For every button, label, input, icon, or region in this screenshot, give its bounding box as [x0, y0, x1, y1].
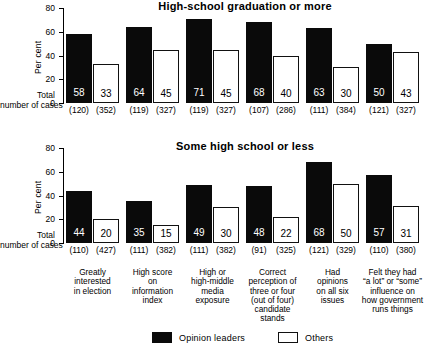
y-axis-label: Per cent [33, 41, 43, 74]
total-cases-label-line2: number of cases [0, 100, 55, 110]
total-cases-caption: Totalnumber of cases [0, 230, 55, 250]
bar-leader: 63 [306, 28, 332, 103]
bar-other: 43 [393, 52, 419, 103]
bar-value-label: 33 [94, 89, 118, 99]
bar-value-label: 45 [214, 89, 238, 99]
category-label-line: stands [232, 314, 313, 323]
bar-leader: 64 [126, 27, 152, 103]
category-label-6: Felt they had“a lot” or “some”influence … [352, 268, 433, 314]
bar-leader: 58 [66, 34, 92, 103]
y-axis-tick-label: 80 [39, 4, 55, 12]
y-axis-tick [59, 56, 63, 57]
bar-value-label: 15 [154, 229, 178, 239]
bar-value-label: 40 [274, 89, 298, 99]
bar-value-label: 45 [154, 89, 178, 99]
total-cases-caption: Totalnumber of cases [0, 90, 55, 110]
bar-other: 31 [393, 206, 419, 243]
bar-value-label: 49 [187, 228, 211, 238]
bar-other: 50 [333, 184, 359, 243]
n-cases-label: (327) [149, 106, 183, 115]
bar-value-label: 44 [67, 228, 91, 238]
figure-root: High-school graduation or more 020406080… [0, 0, 435, 353]
bar-value-label: 30 [214, 229, 238, 239]
bar-value-label: 50 [367, 88, 391, 98]
bar-value-label: 48 [247, 228, 271, 238]
bar-value-label: 20 [94, 229, 118, 239]
bar-value-label: 35 [127, 228, 151, 238]
n-cases-label: (382) [149, 246, 183, 255]
legend-item-other: Others [278, 332, 333, 343]
bar-leader: 35 [126, 201, 152, 243]
legend-label: Opinion leaders [179, 333, 245, 343]
bar-value-label: 31 [394, 229, 418, 239]
n-cases-label: (352) [89, 106, 123, 115]
bar-value-label: 30 [334, 89, 358, 99]
bar-value-label: 58 [67, 88, 91, 98]
y-axis-tick [59, 32, 63, 33]
n-cases-label: (427) [89, 246, 123, 255]
n-cases-label: (286) [269, 106, 303, 115]
chart-panel-some-high-school: Some high school or less 020406080Per ce… [0, 140, 435, 267]
bar-value-label: 71 [187, 88, 211, 98]
n-cases-label: (380) [389, 246, 423, 255]
y-axis-tick-label: 20 [39, 75, 55, 83]
bar-other: 40 [273, 56, 299, 104]
bar-leader: 68 [306, 162, 332, 243]
bar-value-label: 22 [274, 229, 298, 239]
chart-panel-high-school-graduation: High-school graduation or more 020406080… [0, 0, 435, 140]
y-axis-line [63, 8, 64, 104]
y-axis-tick-label: 60 [39, 168, 55, 176]
bar-other: 30 [213, 207, 239, 243]
bar-other: 15 [153, 225, 179, 243]
n-cases-label: (329) [329, 246, 363, 255]
bar-other: 45 [153, 50, 179, 103]
n-cases-label: (325) [269, 246, 303, 255]
legend-swatch-other-icon [278, 332, 298, 343]
bar-leader: 71 [186, 19, 212, 103]
bar-value-label: 64 [127, 88, 151, 98]
bar-other: 22 [273, 217, 299, 243]
bar-leader: 48 [246, 186, 272, 243]
bar-value-label: 43 [394, 89, 418, 99]
plot-area: 020406080Per centTotalnumber of cases44(… [0, 140, 435, 250]
y-axis-tick-label: 20 [39, 215, 55, 223]
n-cases-label: (327) [389, 106, 423, 115]
category-labels-row: Greatlyinterestedin electionHigh scoreon… [0, 268, 435, 330]
total-cases-label-line2: number of cases [0, 240, 55, 250]
bar-other: 30 [333, 67, 359, 103]
bar-value-label: 63 [307, 88, 331, 98]
y-axis-tick [59, 172, 63, 173]
legend-swatch-leader-icon [152, 332, 172, 343]
y-axis-tick [59, 79, 63, 80]
bar-leader: 57 [366, 175, 392, 243]
y-axis-line [63, 148, 64, 244]
y-axis-tick-label: 60 [39, 28, 55, 36]
bar-other: 33 [93, 64, 119, 103]
total-cases-label-line1: Total [0, 230, 55, 240]
bar-leader: 49 [186, 185, 212, 243]
bar-value-label: 57 [367, 228, 391, 238]
bar-value-label: 68 [247, 88, 271, 98]
legend-label: Others [305, 333, 333, 343]
y-axis-tick-label: 80 [39, 144, 55, 152]
bar-value-label: 50 [334, 229, 358, 239]
plot-area: 020406080Per centTotalnumber of cases58(… [0, 0, 435, 110]
n-cases-label: (384) [329, 106, 363, 115]
bar-leader: 68 [246, 22, 272, 103]
bar-value-label: 68 [307, 228, 331, 238]
bar-other: 20 [93, 219, 119, 243]
category-label-line: runs things [352, 305, 433, 314]
total-cases-label-line1: Total [0, 90, 55, 100]
y-axis-label: Per cent [33, 181, 43, 214]
bar-leader: 44 [66, 191, 92, 243]
bar-leader: 50 [366, 44, 392, 103]
legend: Opinion leadersOthers [0, 332, 435, 350]
y-axis-tick [59, 8, 63, 9]
y-axis-tick [59, 148, 63, 149]
n-cases-label: (382) [209, 246, 243, 255]
bar-other: 45 [213, 50, 239, 103]
n-cases-label: (327) [209, 106, 243, 115]
legend-item-leader: Opinion leaders [152, 332, 245, 343]
y-axis-tick [59, 219, 63, 220]
y-axis-tick [59, 196, 63, 197]
